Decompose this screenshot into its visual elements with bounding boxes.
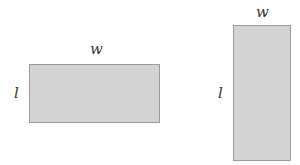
tall-rectangle-width-label: w bbox=[256, 5, 269, 20]
wide-rectangle-length-label: l bbox=[14, 86, 19, 101]
wide-rectangle bbox=[29, 64, 160, 123]
wide-rectangle-width-label: w bbox=[90, 42, 103, 57]
tall-rectangle-length-label: l bbox=[218, 86, 223, 101]
tall-rectangle bbox=[233, 25, 291, 161]
